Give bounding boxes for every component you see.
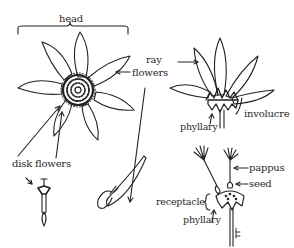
label-disk-flowers: disk flowers (12, 159, 71, 169)
label-phyllary-side-view: phyllary (180, 122, 218, 132)
label-involucre: involucre (244, 109, 289, 119)
label-pappus: pappus (249, 163, 285, 173)
label-head: head (59, 14, 83, 24)
label-ray: ray (146, 55, 162, 65)
flower-anatomy-drawing (0, 0, 294, 248)
label-receptacle: receptacle (156, 197, 205, 207)
flower-head-top-view (18, 32, 134, 140)
disk-flower (38, 179, 50, 226)
label-seed: seed (249, 179, 272, 189)
diagram-canvas: head ray flowers involucre phyllary disk… (0, 0, 294, 248)
label-phyllary-seed-head: phyllary (183, 215, 221, 225)
label-flowers: flowers (132, 68, 168, 78)
disk-flowers-arrows (18, 106, 64, 184)
ray-flower (98, 156, 146, 208)
